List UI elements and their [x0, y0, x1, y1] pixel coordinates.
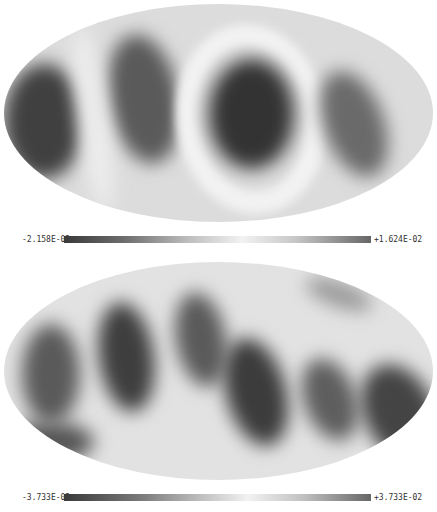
- dark-region: [4, 422, 94, 462]
- dark-region: [302, 271, 376, 318]
- colorbar-min-label: -3.733E-02: [22, 493, 70, 502]
- dark-region: [291, 351, 369, 449]
- top-sky-map: [4, 4, 433, 222]
- dark-region: [4, 64, 84, 179]
- dark-region: [92, 299, 162, 416]
- dark-region: [22, 324, 80, 424]
- colorbar-max-label: +1.624E-02: [374, 235, 422, 244]
- bottom-sky-map: [4, 262, 433, 480]
- dark-region: [209, 59, 294, 169]
- colorbar: [64, 494, 371, 501]
- dark-region: [346, 352, 433, 472]
- colorbar-min-label: -2.158E-02: [22, 235, 70, 244]
- colorbar-max-label: +3.733E-02: [374, 493, 422, 502]
- colorbar: [64, 236, 371, 243]
